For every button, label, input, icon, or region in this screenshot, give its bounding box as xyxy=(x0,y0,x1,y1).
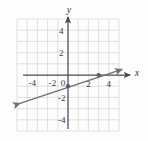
axes xyxy=(23,17,130,129)
x-tick-label-2: 2 xyxy=(86,79,91,89)
point-x-intercept xyxy=(97,73,101,77)
x-tick-label-4: 4 xyxy=(107,79,112,89)
x-tick-label--4: -4 xyxy=(28,78,36,88)
origin-label: 0 xyxy=(61,78,66,88)
graph-svg: -4 -2 0 2 4 4 2 -2 -4 y x xyxy=(0,0,148,141)
y-axis-label: y xyxy=(66,4,72,15)
y-tick-label-2: 2 xyxy=(59,48,64,58)
coordinate-plane-figure: -4 -2 0 2 4 4 2 -2 -4 y x xyxy=(0,0,148,141)
y-tick-label--4: -4 xyxy=(58,115,66,125)
point-y-intercept xyxy=(66,84,70,88)
x-tick-label--2: -2 xyxy=(49,78,57,88)
x-axis-label: x xyxy=(134,67,140,78)
y-tick-label-4: 4 xyxy=(59,26,64,36)
y-tick-label--2: -2 xyxy=(58,93,66,103)
